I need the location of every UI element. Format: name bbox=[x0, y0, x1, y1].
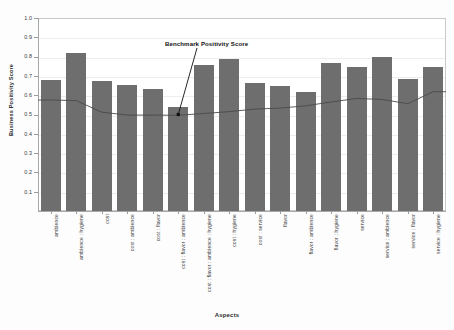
x-tick-mark bbox=[357, 211, 358, 214]
x-tick-label: cost : service bbox=[257, 214, 263, 304]
x-tick-label: cost : hygiene bbox=[231, 214, 237, 304]
x-tick-mark bbox=[306, 211, 307, 214]
y-tick-label: 1.0 bbox=[8, 15, 32, 21]
bar[interactable] bbox=[168, 107, 188, 211]
x-axis-title: Aspects bbox=[0, 312, 454, 318]
bar[interactable] bbox=[372, 57, 392, 211]
bar[interactable] bbox=[245, 83, 265, 211]
bar[interactable] bbox=[66, 53, 86, 211]
bar[interactable] bbox=[117, 85, 137, 211]
y-tick-label: 0.2 bbox=[8, 169, 32, 175]
x-tick-label: flavor : ambience bbox=[308, 214, 314, 304]
annotation-label: Benchmark Positivity Score bbox=[165, 40, 248, 47]
x-tick-mark bbox=[204, 211, 205, 214]
x-tick-mark bbox=[102, 211, 103, 214]
bar[interactable] bbox=[321, 63, 341, 211]
x-tick-mark bbox=[408, 211, 409, 214]
x-tick-label: cost bbox=[104, 214, 110, 304]
bar[interactable] bbox=[194, 65, 214, 211]
x-tick-label: ambience : hygiene bbox=[78, 214, 84, 304]
y-axis-line bbox=[38, 18, 39, 211]
x-tick-mark bbox=[51, 211, 52, 214]
bar[interactable] bbox=[143, 89, 163, 211]
chart-figure: 1.00.90.80.70.60.50.40.30.20.1 Business … bbox=[0, 0, 454, 330]
bar[interactable] bbox=[92, 81, 112, 211]
bar[interactable] bbox=[398, 79, 418, 211]
x-tick-label: cost : flavor : ambience bbox=[180, 214, 186, 304]
x-axis-line bbox=[38, 211, 446, 212]
bar[interactable] bbox=[347, 67, 367, 211]
bar[interactable] bbox=[41, 80, 61, 211]
x-tick-label: service : hygiene bbox=[435, 214, 441, 304]
bar[interactable] bbox=[296, 92, 316, 211]
y-axis-title: Business Positivity Score bbox=[8, 35, 14, 165]
y-tick-label: 0.1 bbox=[8, 189, 32, 195]
x-tick-label: cost : ambience bbox=[129, 214, 135, 304]
x-tick-label: service : ambience bbox=[384, 214, 390, 304]
x-tick-label: cost : flavor : ambience : hygiene bbox=[206, 214, 212, 304]
x-tick-mark bbox=[153, 211, 154, 214]
bar[interactable] bbox=[270, 86, 290, 211]
bar[interactable] bbox=[423, 67, 443, 211]
x-tick-label: flavor bbox=[282, 214, 288, 304]
x-tick-label: cost : flavor bbox=[155, 214, 161, 304]
x-tick-label: service : flavor bbox=[410, 214, 416, 304]
x-tick-label: flavor : hygiene bbox=[333, 214, 339, 304]
bar[interactable] bbox=[219, 59, 239, 211]
x-tick-mark bbox=[255, 211, 256, 214]
x-tick-label: service bbox=[359, 214, 365, 304]
x-tick-label: ambience bbox=[53, 214, 59, 304]
